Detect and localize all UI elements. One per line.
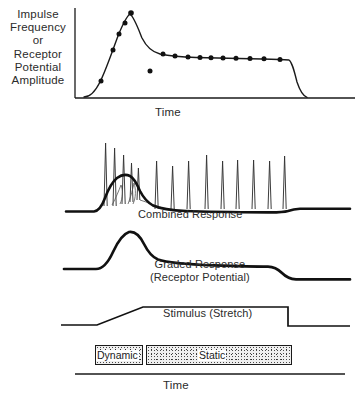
y-axis-label-line-3: or <box>4 34 72 47</box>
data-point <box>248 56 253 61</box>
spike <box>268 161 271 209</box>
graded-response-label: Graded Response (Receptor Potential) <box>150 258 250 284</box>
y-axis-label-line-2: Frequency <box>4 21 72 34</box>
data-point <box>198 55 203 60</box>
data-point <box>221 56 226 61</box>
spike <box>205 155 208 209</box>
sensory-receptor-adaptation-figure: Impulse Frequency or Receptor Potential … <box>0 0 362 397</box>
spike <box>171 166 174 209</box>
combined-response-panel <box>66 143 350 212</box>
y-axis-label-line-5: Potential <box>4 61 72 74</box>
data-point <box>262 56 267 61</box>
data-point <box>186 55 191 60</box>
spike <box>221 161 224 209</box>
impulse-frequency-panel <box>75 8 355 98</box>
spike <box>187 161 190 209</box>
y-axis-label-line-4: Receptor <box>4 48 72 61</box>
top-panel-time-label: Time <box>155 106 181 118</box>
top-panel-y-axis-label: Impulse Frequency or Receptor Potential … <box>4 8 72 87</box>
data-point <box>161 52 166 57</box>
data-point <box>99 79 104 84</box>
data-point <box>117 32 122 37</box>
spike <box>283 156 286 209</box>
data-point <box>278 57 283 62</box>
spike <box>155 161 158 209</box>
spike <box>252 160 255 209</box>
data-point-outlier <box>148 69 153 74</box>
combined-response-label: Combined Response <box>138 208 242 220</box>
y-axis-label-line-1: Impulse <box>4 8 72 21</box>
data-point <box>128 10 134 16</box>
stimulus-label: Stimulus (Stretch) <box>163 307 252 319</box>
phase-label-static: Static <box>198 350 226 361</box>
data-point <box>173 54 178 59</box>
graded-response-label-line-1: Graded Response <box>150 258 250 271</box>
loop <box>128 183 135 204</box>
top-panel-adaptation-curve <box>84 14 307 97</box>
bottom-panel-time-label: Time <box>163 379 189 391</box>
y-axis-label-line-6: Amplitude <box>4 74 72 87</box>
data-point <box>234 56 239 61</box>
graded-response-label-line-2: (Receptor Potential) <box>150 271 250 284</box>
phase-label-dynamic: Dynamic <box>96 350 139 361</box>
top-panel-data-points <box>99 10 283 83</box>
data-point <box>111 48 116 53</box>
data-point <box>123 21 128 26</box>
data-point <box>209 55 214 60</box>
spike <box>236 160 239 209</box>
